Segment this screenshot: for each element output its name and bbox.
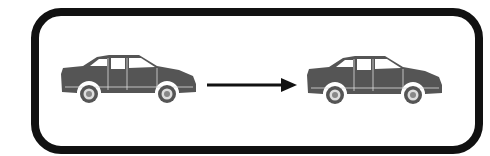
car-icon: [304, 55, 446, 105]
arrow-right-icon: [207, 77, 299, 93]
car-icon: [59, 54, 199, 104]
